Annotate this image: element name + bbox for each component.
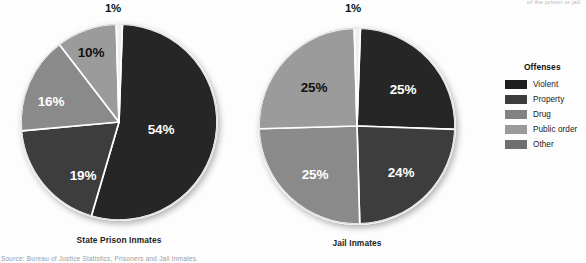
legend-swatch-icon [505, 110, 527, 119]
legend-swatch-icon [505, 95, 527, 104]
legend-item-public-order: Public order [505, 122, 586, 137]
slice-value-label-violent: 25% [390, 82, 416, 97]
legend-item-label: Drug [533, 110, 551, 119]
slice-value-label-other: 1% [345, 2, 361, 14]
legend-title: Offenses [524, 62, 586, 72]
legend-swatch-icon [505, 80, 527, 89]
legend-rows: ViolentPropertyDrugPublic orderOther [505, 77, 586, 152]
legend-item-label: Public order [533, 125, 577, 134]
legend: Offenses ViolentPropertyDrugPublic order… [505, 62, 586, 152]
chart-title-jail-inmates: Jail Inmates [267, 238, 447, 248]
slice-value-label-property: 24% [388, 165, 414, 180]
slice-value-label-public-order: 25% [301, 80, 327, 95]
legend-item-drug: Drug [505, 107, 586, 122]
slice-value-label-drug: 25% [302, 167, 328, 182]
legend-item-label: Property [533, 95, 564, 104]
cropped-caption-bottom: Source: Bureau of Justice Statistics, Pr… [1, 255, 198, 263]
legend-item-violent: Violent [505, 77, 586, 92]
legend-item-property: Property [505, 92, 586, 107]
legend-swatch-icon [505, 125, 527, 134]
legend-item-other: Other [505, 137, 586, 152]
pie-svg-jail-inmates [0, 0, 586, 263]
legend-item-label: Violent [533, 80, 558, 89]
pie-slice-violent [357, 28, 455, 129]
legend-swatch-icon [505, 140, 527, 149]
pie-chart-figure: of the prison or jail. 54%19%16%10%1%25%… [0, 0, 586, 263]
chart-title-state-prison-inmates: State Prison Inmates [29, 235, 209, 245]
legend-item-label: Other [533, 140, 554, 149]
pie-slice-public-order [259, 28, 357, 129]
